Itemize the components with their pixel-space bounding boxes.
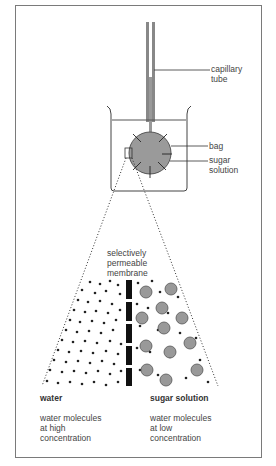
- membrane-label: selectively permeable membrane: [107, 248, 148, 278]
- sugar-solution-heading: sugar solution: [150, 393, 209, 403]
- membrane: [126, 280, 132, 386]
- water-heading: water: [40, 393, 62, 403]
- bag: [125, 132, 208, 178]
- sugar-molecules: [136, 283, 203, 386]
- capillary-tube-label: capillary tube: [211, 64, 242, 84]
- sugar-solution-beaker-label: sugar solution: [209, 155, 238, 175]
- water-description: water molecules at high concentration: [40, 413, 101, 443]
- sugar-solution-description: water molecules at low concentration: [150, 413, 211, 443]
- bag-label: bag: [209, 141, 223, 151]
